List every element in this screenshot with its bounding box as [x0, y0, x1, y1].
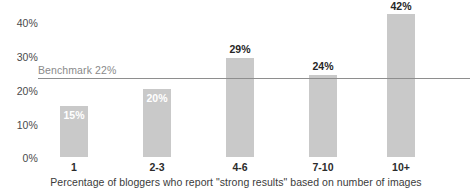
bar-value-2-3: 20%	[143, 92, 171, 104]
bar-value-1: 15%	[60, 109, 88, 121]
bar-value-4-6: 29%	[218, 43, 262, 55]
y-tick-label-40: 40%	[4, 17, 38, 29]
x-tick-label-2-3: 2-3	[135, 161, 179, 173]
bar-4-6[interactable]	[226, 58, 254, 157]
bar-7-10[interactable]	[309, 75, 337, 157]
y-tick-label-0: 0%	[4, 152, 38, 164]
y-tick-label-20: 20%	[4, 85, 38, 97]
bar-value-7-10: 24%	[301, 60, 345, 72]
bar-10-plus[interactable]	[387, 14, 415, 157]
x-tick-label-4-6: 4-6	[218, 161, 262, 173]
x-tick-label-10-plus: 10+	[379, 161, 423, 173]
x-tick-label-7-10: 7-10	[301, 161, 345, 173]
bar-chart: 40% 30% 20% 10% 0% 15% 20% 29% 24% 42% B…	[0, 0, 472, 191]
x-tick-label-1: 1	[52, 161, 96, 173]
bar-value-10-plus: 42%	[379, 0, 423, 12]
benchmark-line	[38, 78, 470, 79]
y-tick-label-10: 10%	[4, 119, 38, 131]
benchmark-label: Benchmark 22%	[38, 64, 116, 76]
y-tick-label-30: 30%	[4, 51, 38, 63]
plot-area: 40% 30% 20% 10% 0% 15% 20% 29% 24% 42% B…	[0, 0, 472, 191]
chart-caption: Percentage of bloggers who report "stron…	[0, 176, 472, 188]
